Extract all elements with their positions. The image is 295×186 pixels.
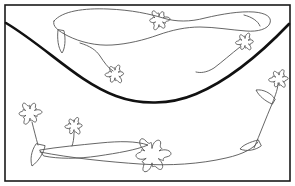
line-drawing-artwork xyxy=(0,0,295,186)
drawing-canvas xyxy=(0,0,295,186)
